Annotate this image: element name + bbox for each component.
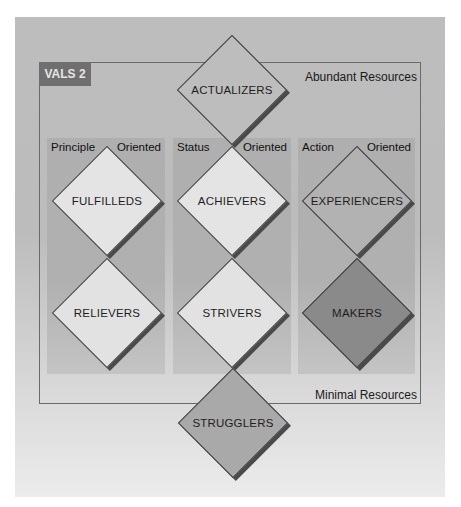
segment-actualizers: ACTUALIZERS — [177, 35, 287, 145]
segment-believers: RELIEVERS — [52, 258, 162, 368]
vals2-badge: VALS 2 — [39, 62, 91, 86]
segment-fulfilleds: FULFILLEDS — [52, 146, 162, 256]
segment-strugglers: STRUGGLERS — [178, 368, 288, 478]
segment-makers: MAKERS — [302, 258, 412, 368]
abundant-resources-label: Abundant Resources — [305, 70, 417, 84]
segment-label: EXPERIENCERS — [302, 146, 412, 256]
segment-achievers: ACHIEVERS — [177, 146, 287, 256]
segment-label: RELIEVERS — [52, 258, 162, 368]
segment-label: MAKERS — [302, 258, 412, 368]
segment-experiencers: EXPERIENCERS — [302, 146, 412, 256]
segment-label: STRUGGLERS — [178, 368, 288, 478]
segment-strivers: STRIVERS — [177, 258, 287, 368]
segment-label: STRIVERS — [177, 258, 287, 368]
segment-label: ACTUALIZERS — [177, 35, 287, 145]
minimal-resources-label: Minimal Resources — [315, 388, 417, 402]
segment-label: ACHIEVERS — [177, 146, 287, 256]
segment-label: FULFILLEDS — [52, 146, 162, 256]
